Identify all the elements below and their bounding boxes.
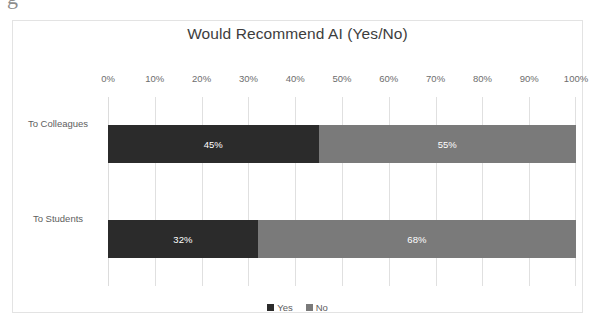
x-axis-tick-label: 100% [553,73,595,84]
legend-label: No [316,302,328,313]
x-axis-tick-label: 0% [85,73,131,84]
chart-title: Would Recommend AI (Yes/No) [13,25,582,43]
bar-segment-no[interactable]: 68% [258,220,576,258]
bar-value-label: 55% [319,139,576,150]
x-axis-tick-label: 30% [225,73,271,84]
plot-area: 45%55%32%68% [108,97,576,286]
category-label: To Students [15,213,101,224]
chart-legend: YesNo [13,302,582,313]
chart-container: Would Recommend AI (Yes/No) 0%10%20%30%4… [12,20,583,313]
x-axis-tick-label: 20% [179,73,225,84]
x-axis-tick-label: 70% [413,73,459,84]
bar-segment-yes[interactable]: 45% [108,125,319,163]
x-axis-tick-label: 60% [366,73,412,84]
clipped-text-above-chart: g [7,0,18,8]
legend-label: Yes [277,302,293,313]
bar-value-label: 68% [258,233,576,244]
x-axis-tick-label: 50% [319,73,365,84]
bar-row: 32%68% [108,220,576,258]
bar-value-label: 32% [108,233,258,244]
x-axis-tick-label: 90% [506,73,552,84]
category-label: To Colleagues [15,118,101,129]
bar-segment-yes[interactable]: 32% [108,220,258,258]
legend-swatch-icon [267,304,274,311]
bar-segment-no[interactable]: 55% [319,125,576,163]
legend-item-yes[interactable]: Yes [267,302,293,313]
x-axis-tick-label: 80% [459,73,505,84]
legend-item-no[interactable]: No [306,302,328,313]
x-axis-tick-label: 10% [132,73,178,84]
legend-swatch-icon [306,304,313,311]
x-axis-tick-labels: 0%10%20%30%40%50%60%70%80%90%100% [96,73,564,89]
x-axis-tick-label: 40% [272,73,318,84]
bar-value-label: 45% [108,139,319,150]
bar-row: 45%55% [108,125,576,163]
